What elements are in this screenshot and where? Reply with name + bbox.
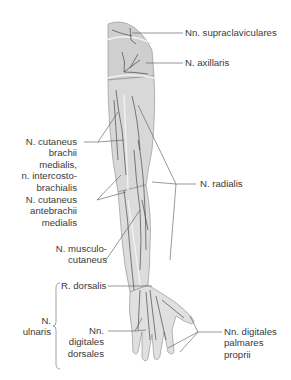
label-musculocutaneus: N. musculo- cutaneus: [27, 243, 107, 266]
label-r-dorsalis: R. dorsalis: [61, 280, 106, 291]
label-supraclaviculares: Nn. supraclaviculares: [185, 27, 277, 38]
label-cutaneus-brachii-medialis: N. cutaneus brachii medialis, n. interco…: [0, 136, 77, 193]
label-radialis: N. radialis: [200, 178, 243, 189]
label-digitales-palmares-proprii: Nn. digitales palmares proprii: [224, 326, 277, 360]
label-digitales-dorsales: Nn. digitales dorsales: [44, 325, 104, 359]
label-axillaris: N. axillaris: [185, 57, 229, 68]
label-cutaneus-antebrachii-medialis: N. cutaneus antebrachii medialis: [0, 194, 77, 228]
arm-shape: [108, 22, 194, 361]
